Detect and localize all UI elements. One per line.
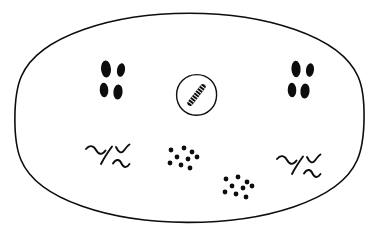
coccus-dot	[182, 146, 187, 151]
outer-ellipse	[15, 13, 364, 222]
coccus-dot	[224, 177, 229, 182]
spirochete-wave	[292, 157, 303, 175]
coccus-dot	[250, 184, 255, 189]
spirochete-wave	[304, 170, 321, 177]
spirochete-wave	[116, 145, 130, 153]
rod-shape	[305, 63, 315, 78]
coccus-dot	[241, 186, 246, 191]
rod-shape	[116, 63, 126, 78]
diagram-canvas	[0, 0, 379, 235]
coccus-dot	[175, 155, 180, 160]
cocci-cluster-lower-right	[223, 175, 255, 200]
coccus-dot	[168, 161, 173, 166]
cocci-cluster-center-left	[168, 146, 200, 171]
coccus-dot	[186, 157, 191, 162]
coccus-dot	[230, 184, 235, 189]
coccus-dot	[234, 192, 239, 197]
coccus-dot	[195, 155, 200, 160]
spirochete-wave	[277, 156, 297, 164]
coccus-dot	[244, 195, 249, 200]
rod-shape	[113, 84, 123, 100]
outer-ellipse-group	[15, 13, 364, 222]
central-structure-group	[177, 75, 217, 116]
microbiology-schematic-svg	[0, 0, 379, 235]
coccus-dot	[245, 180, 250, 185]
spirochete-wave	[86, 146, 106, 154]
rod-shape	[100, 60, 111, 78]
spirochete-wave	[113, 160, 130, 167]
rod-cluster-left	[99, 60, 126, 100]
coccus-dot	[236, 175, 241, 180]
spirochete-cluster-left	[86, 145, 130, 167]
rod-cluster-right	[287, 61, 314, 99]
coccus-dot	[179, 163, 184, 168]
rod-shape	[287, 83, 296, 98]
coccus-dot	[223, 190, 228, 195]
rod-shape	[291, 61, 301, 78]
rod-shape	[300, 83, 310, 99]
coccus-dot	[169, 148, 174, 153]
coccus-dot	[188, 166, 193, 171]
coccus-dot	[190, 150, 195, 155]
spirochete-cluster-right	[277, 155, 321, 177]
striated-rod	[186, 83, 206, 107]
spirochete-wave	[307, 155, 321, 163]
spirochete-wave	[101, 147, 112, 165]
striated-rod-body	[186, 83, 206, 107]
rod-shape	[99, 83, 108, 98]
